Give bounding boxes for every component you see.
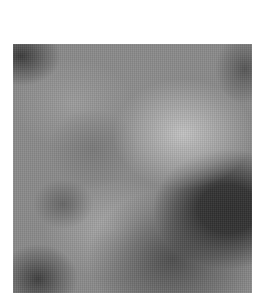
texture-grain-overlay <box>13 44 252 293</box>
noise-texture-image <box>13 44 252 293</box>
